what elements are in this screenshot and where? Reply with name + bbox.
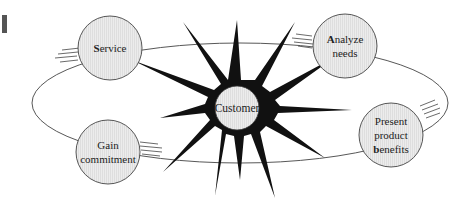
label-initial: A bbox=[327, 33, 335, 45]
label-present-product-benefits: Present product benefits bbox=[373, 114, 408, 156]
sales-cycle-diagram: Service Analyze needs Present product be… bbox=[0, 0, 473, 204]
section-marker bbox=[2, 15, 7, 33]
label-service: Service bbox=[94, 41, 127, 55]
label-analyze-needs: Analyze needs bbox=[327, 32, 364, 60]
label-text: Gain bbox=[80, 138, 136, 152]
label-text: ervice bbox=[100, 42, 127, 54]
label-customer: Customer bbox=[215, 101, 260, 115]
label-text: product bbox=[373, 128, 408, 142]
label-text: enefits bbox=[379, 143, 408, 155]
label-text: commitment bbox=[80, 152, 136, 166]
label-text: Present bbox=[373, 114, 408, 128]
label-text: needs bbox=[327, 46, 364, 60]
label-text: nalyze bbox=[335, 33, 364, 45]
label-gain-commitment: Gain commitment bbox=[80, 138, 136, 166]
